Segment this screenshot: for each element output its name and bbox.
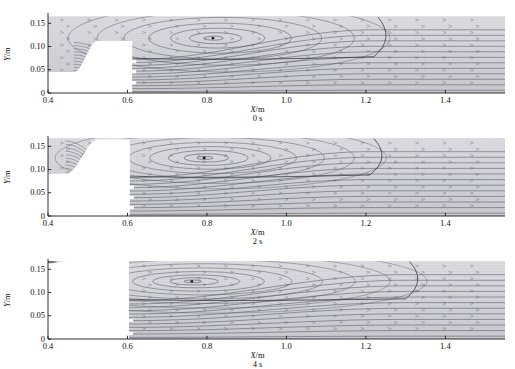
- plot-area-2s: Y/m00.050.100.150.40.60.81.01.21.4X/m2 s: [0, 123, 515, 246]
- panel-caption: 4 s: [0, 359, 515, 369]
- streamline-panel-4s: Y/m00.050.100.150.40.60.81.01.21.4X/m4 s: [0, 246, 515, 369]
- panel-caption: 0 s: [0, 113, 515, 123]
- streamline-panel-0s: Y/m00.050.100.150.40.60.81.01.21.4X/m0 s: [0, 0, 515, 123]
- plot-area-0s: Y/m00.050.100.150.40.60.81.01.21.4X/m0 s: [0, 0, 515, 123]
- panel-caption: 2 s: [0, 236, 515, 246]
- plot-area-4s: Y/m00.050.100.150.40.60.81.01.21.4X/m4 s: [0, 246, 515, 369]
- streamline-panel-2s: Y/m00.050.100.150.40.60.81.01.21.4X/m2 s: [0, 123, 515, 246]
